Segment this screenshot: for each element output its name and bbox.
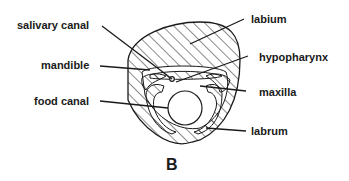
label-maxilla: maxilla <box>259 86 296 98</box>
label-salivary-canal: salivary canal <box>17 19 89 31</box>
label-mandible: mandible <box>41 59 89 71</box>
label-labrum: labrum <box>251 125 288 137</box>
label-food-canal: food canal <box>34 95 89 107</box>
label-hypopharynx: hypopharynx <box>259 51 328 63</box>
food-canal-shape <box>168 91 202 125</box>
label-labium: labium <box>251 13 286 25</box>
panel-label: B <box>166 156 178 174</box>
mouthpart-cross-section-diagram: salivary canal mandible food canal labiu… <box>0 0 349 181</box>
